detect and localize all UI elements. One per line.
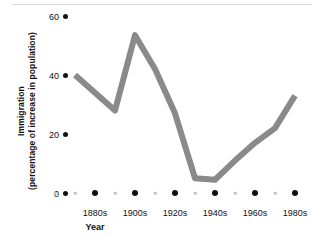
x-tick-label-1940s: 1940s bbox=[203, 208, 228, 218]
x-tick-label-1920s: 1920s bbox=[163, 208, 188, 218]
x-tick-dot-minor-icon bbox=[274, 192, 277, 195]
data-series-line bbox=[75, 35, 295, 180]
x-tick-dot-minor-icon bbox=[234, 192, 237, 195]
x-tick-dot-minor-icon bbox=[194, 192, 197, 195]
y-tick-dot-icon bbox=[63, 132, 68, 137]
y-tick-dot-icon bbox=[63, 14, 68, 19]
x-tick-dot-major-icon bbox=[172, 190, 178, 196]
immigration-line-chart: Immigration (percentage of increase in p… bbox=[0, 0, 324, 248]
x-tick-label-1900s: 1900s bbox=[123, 208, 148, 218]
x-tick-dot-major-icon bbox=[212, 190, 218, 196]
x-tick-label-1960s: 1960s bbox=[243, 208, 268, 218]
x-tick-dot-major-icon bbox=[132, 190, 138, 196]
y-tick-label-40: 40 bbox=[49, 71, 59, 81]
y-tick-dot-icon bbox=[63, 73, 68, 78]
x-axis-title: Year bbox=[85, 222, 104, 232]
x-tick-label-1980s: 1980s bbox=[283, 208, 308, 218]
y-tick-20: 20 bbox=[8, 129, 68, 139]
y-tick-label-60: 60 bbox=[49, 12, 59, 22]
x-tick-dot-major-icon bbox=[292, 190, 298, 196]
x-tick-dot-major-icon bbox=[252, 190, 258, 196]
x-tick-dot-minor-icon bbox=[154, 192, 157, 195]
y-tick-40: 40 bbox=[8, 70, 68, 80]
x-tick-dot-minor-icon bbox=[54, 192, 57, 195]
x-tick-dot-minor-icon bbox=[74, 192, 77, 195]
y-tick-60: 60 bbox=[8, 11, 68, 21]
x-tick-dot-major-icon bbox=[92, 190, 98, 196]
y-tick-label-20: 20 bbox=[49, 130, 59, 140]
y-tick-0: 0 bbox=[8, 188, 68, 198]
y-tick-dot-icon bbox=[63, 191, 68, 196]
x-tick-dot-minor-icon bbox=[114, 192, 117, 195]
x-tick-label-1880s: 1880s bbox=[83, 208, 108, 218]
y-axis: 0 20 40 60 bbox=[0, 0, 68, 248]
